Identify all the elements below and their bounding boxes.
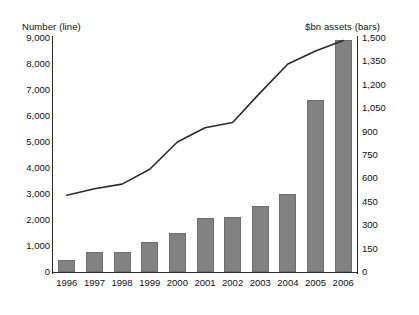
x-tick-label: 1997 bbox=[84, 277, 105, 288]
y2-tick-label: 1,050 bbox=[362, 103, 386, 113]
right-axis-spine bbox=[357, 36, 358, 274]
y2-tick-label: 0 bbox=[362, 267, 367, 277]
x-tick-label: 2001 bbox=[194, 277, 215, 288]
x-tick-label: 2000 bbox=[167, 277, 188, 288]
y-tick-label: 0 bbox=[6, 267, 50, 277]
x-tick-label: 2003 bbox=[250, 277, 271, 288]
x-axis-labels: 1996199719981999200020012002200320042005… bbox=[53, 277, 357, 299]
right-axis-ticks: 01503004506007509001,0501,2001,3501,500 bbox=[362, 38, 418, 272]
x-tick-label: 1996 bbox=[56, 277, 77, 288]
y2-tick-label: 1,350 bbox=[362, 56, 386, 66]
y-tick-label: 3,000 bbox=[6, 189, 50, 199]
x-tick-label: 2002 bbox=[222, 277, 243, 288]
x-tick-label: 2004 bbox=[277, 277, 298, 288]
x-tick-label: 1999 bbox=[139, 277, 160, 288]
x-tick-label: 1998 bbox=[112, 277, 133, 288]
y-tick-label: 6,000 bbox=[6, 111, 50, 121]
y2-tick-label: 150 bbox=[362, 244, 378, 254]
x-axis-spine bbox=[52, 272, 358, 273]
line-series bbox=[53, 38, 357, 272]
y-tick-label: 2,000 bbox=[6, 215, 50, 225]
right-axis-title: $bn assets (bars) bbox=[305, 21, 380, 32]
y-tick-label: 8,000 bbox=[6, 59, 50, 69]
y2-tick-label: 900 bbox=[362, 127, 378, 137]
plot-area bbox=[53, 38, 357, 272]
left-axis-title: Number (line) bbox=[22, 21, 81, 32]
y2-tick-label: 750 bbox=[362, 150, 378, 160]
y2-tick-label: 1,500 bbox=[362, 33, 386, 43]
y-tick-label: 7,000 bbox=[6, 85, 50, 95]
y2-tick-label: 450 bbox=[362, 197, 378, 207]
y-tick-label: 5,000 bbox=[6, 137, 50, 147]
y-tick-label: 1,000 bbox=[6, 241, 50, 251]
x-tick-label: 2005 bbox=[305, 277, 326, 288]
y2-tick-label: 1,200 bbox=[362, 80, 386, 90]
y2-tick-label: 600 bbox=[362, 173, 378, 183]
y2-tick-label: 300 bbox=[362, 220, 378, 230]
line-path bbox=[67, 41, 343, 196]
y-tick-label: 9,000 bbox=[6, 33, 50, 43]
left-axis-ticks: 01,0002,0003,0004,0005,0006,0007,0008,00… bbox=[0, 38, 50, 272]
chart-figure: Number (line) $bn assets (bars) 01,0002,… bbox=[0, 0, 419, 315]
x-tick-label: 2006 bbox=[333, 277, 354, 288]
y-tick-label: 4,000 bbox=[6, 163, 50, 173]
